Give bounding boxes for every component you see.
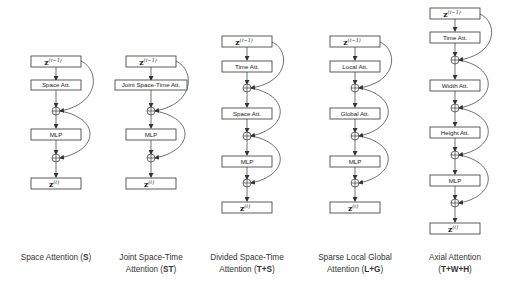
svg-text:Time Att.: Time Att. [235,63,259,70]
local-att-block: Local Att. [330,61,380,72]
output-node: z(ℓ) [31,178,81,189]
input-node: z(ℓ−1) [126,56,176,67]
svg-text:Joint Space-Time Att.: Joint Space-Time Att. [122,81,181,88]
svg-text:Height Att.: Height Att. [441,129,470,136]
svg-text:Global Att.: Global Att. [341,110,370,117]
residual-sum-1 [451,56,459,64]
residual-sum-2 [243,132,251,140]
svg-text:MLP: MLP [145,131,158,138]
input-node: z(ℓ−1) [31,56,81,67]
mlp-block: MLP [126,129,176,140]
diagram-axial-attention: z(ℓ−1) Time Att. Width Att. Height Att. [430,8,492,234]
global-att-block: Global Att. [330,108,380,119]
time-att-block: Time Att. [430,32,480,43]
svg-text:Local Att.: Local Att. [342,63,368,70]
residual-sum-2 [52,154,60,162]
space-att-block: Space Att. [31,80,81,90]
svg-text:MLP: MLP [349,158,362,165]
residual-sum-2 [147,154,155,162]
output-node: z(ℓ) [126,178,176,189]
residual-sum-3 [243,179,251,187]
attention-diagrams: z(ℓ−1) Space Att. MLP z(ℓ) [0,0,516,285]
output-node: z(ℓ) [222,202,272,213]
svg-text:Space Att.: Space Att. [233,110,261,117]
diagram-joint-space-time: z(ℓ−1) Joint Space-Time Att. MLP z(ℓ) [115,56,188,189]
svg-text:Time Att.: Time Att. [443,34,467,41]
residual-sum-4 [451,199,459,207]
svg-text:MLP: MLP [50,131,63,138]
caption-axial-attention: Axial Attention (T+W+H) [405,252,505,276]
residual-sum-1 [243,84,251,92]
input-node: z(ℓ−1) [430,8,480,19]
output-node: z(ℓ) [430,223,480,234]
svg-text:MLP: MLP [449,177,462,184]
input-node: z(ℓ−1) [222,36,272,47]
caption-divided-space-time: Divided Space-Time Attention (T+S) [197,252,297,276]
svg-text:Space Att.: Space Att. [42,81,70,88]
input-node: z(ℓ−1) [330,36,380,47]
caption-space-attention: Space Attention (S) [6,252,106,264]
residual-sum-2 [451,104,459,112]
residual-sum-1 [147,107,155,115]
caption-sparse-local-global: Sparse Local Global Attention (L+G) [305,252,405,276]
time-att-block: Time Att. [222,61,272,72]
svg-text:Width Att.: Width Att. [442,82,469,89]
output-node: z(ℓ) [330,202,380,213]
caption-joint-space-time: Joint Space-Time Attention (ST) [101,252,201,276]
residual-sum-1 [351,84,359,92]
joint-space-time-att-block: Joint Space-Time Att. [115,80,187,90]
mlp-block: MLP [222,156,272,167]
residual-sum-2 [351,132,359,140]
width-att-block: Width Att. [430,80,480,91]
residual-sum-3 [451,151,459,159]
diagram-divided-space-time: z(ℓ−1) Time Att. Space Att. MLP z(ℓ) [222,36,284,213]
mlp-block: MLP [330,156,380,167]
mlp-block: MLP [31,129,81,140]
mlp-block: MLP [430,175,480,186]
residual-sum-1 [52,107,60,115]
residual-sum-3 [351,179,359,187]
svg-text:MLP: MLP [241,158,254,165]
diagram-space-attention: z(ℓ−1) Space Att. MLP z(ℓ) [31,56,93,189]
diagram-sparse-local-global: z(ℓ−1) Local Att. Global Att. MLP z( [330,36,392,213]
space-att-block: Space Att. [222,108,272,119]
height-att-block: Height Att. [430,127,480,138]
